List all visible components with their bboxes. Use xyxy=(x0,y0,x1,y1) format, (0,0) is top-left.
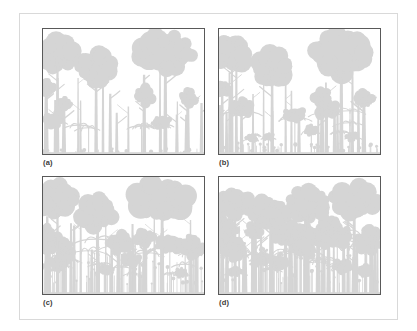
figure-root: (a) (b) (c) (d) xyxy=(0,0,417,331)
panel-c-plot xyxy=(42,176,205,295)
panel-b-plot xyxy=(218,28,381,155)
panel-b-label: (b) xyxy=(219,159,229,167)
panel-d-plot xyxy=(218,176,381,295)
panel-d-label: (d) xyxy=(219,299,229,307)
panel-c-label: (c) xyxy=(43,299,53,307)
panel-grid: (a) (b) (c) (d) xyxy=(42,28,383,296)
panel-a-label: (a) xyxy=(43,159,53,167)
panel-a-plot xyxy=(42,28,205,155)
